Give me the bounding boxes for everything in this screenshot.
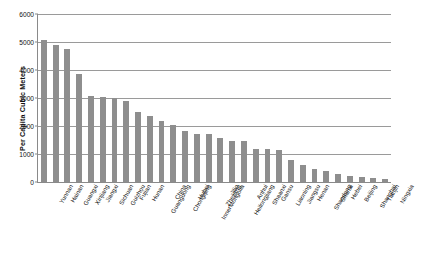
bar — [41, 40, 47, 182]
bar — [123, 101, 129, 182]
y-tick-label: 5000 — [19, 39, 34, 46]
y-tick-label: 4000 — [19, 67, 34, 74]
bar — [335, 174, 341, 182]
bar — [64, 49, 70, 182]
y-tick-label: 3000 — [19, 95, 34, 102]
x-tick-label: Ningxia — [398, 183, 414, 204]
bar — [229, 141, 235, 182]
bar-chart: Per Capita Cubic Meters 0100020003000400… — [0, 0, 427, 262]
bar — [312, 169, 318, 182]
bar — [147, 116, 153, 182]
bar — [182, 131, 188, 182]
bar — [288, 160, 294, 182]
y-tick-label: 0 — [30, 179, 34, 186]
bar — [206, 134, 212, 182]
x-tick-label: Hunan — [150, 183, 165, 202]
bar — [253, 149, 259, 182]
plot-area: 0100020003000400050006000 — [37, 14, 391, 183]
x-axis-labels: YunnanHainanGuangxiXinjiangJiangxiSichua… — [37, 183, 390, 261]
bar — [382, 179, 388, 182]
bar — [359, 177, 365, 182]
bar — [265, 149, 271, 182]
bar — [241, 141, 247, 182]
bar — [217, 138, 223, 182]
bar — [135, 112, 141, 182]
y-tick-label: 1000 — [19, 151, 34, 158]
bar — [53, 45, 59, 182]
bar — [300, 165, 306, 182]
bar — [276, 150, 282, 182]
y-tick-label: 6000 — [19, 11, 34, 18]
bar — [76, 74, 82, 182]
bar — [347, 176, 353, 182]
bar — [88, 96, 94, 182]
bar — [370, 178, 376, 182]
bar — [323, 171, 329, 182]
bar — [159, 121, 165, 182]
y-tick-label: 2000 — [19, 123, 34, 130]
bars-layer — [38, 14, 391, 182]
bar — [194, 134, 200, 182]
bar — [112, 98, 118, 182]
bar — [100, 97, 106, 182]
bar — [170, 125, 176, 182]
x-tick-label: Beijing — [362, 183, 377, 203]
